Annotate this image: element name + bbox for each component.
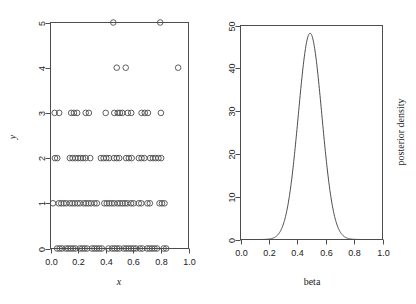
y-axis-title: posterior density	[395, 99, 406, 166]
y-tick-label: 4	[37, 66, 47, 71]
plot-border	[51, 23, 189, 249]
y-tick-label: 40	[227, 63, 237, 73]
y-tick-label: 3	[37, 111, 47, 116]
y-tick-label: 30	[227, 106, 237, 116]
y-tick-label: 0	[37, 247, 47, 252]
y-tick-label: 50	[227, 21, 237, 31]
x-tick-label: 0.8	[155, 257, 168, 267]
y-tick-label: 1	[37, 201, 47, 206]
scatter-plot-svg: 012345 0.00.20.40.60.81.0 x y	[0, 0, 208, 304]
x-axis-ticks: 0.00.20.40.60.81.0	[235, 240, 390, 258]
x-tick-label: 1.0	[183, 257, 196, 267]
data-point	[50, 201, 56, 207]
data-point	[175, 65, 181, 71]
x-tick-label: 0.0	[235, 248, 248, 258]
x-tick-label: 0.6	[127, 257, 140, 267]
x-tick-label: 0.4	[100, 257, 113, 267]
scatter-points	[50, 20, 181, 252]
y-tick-label: 10	[227, 192, 237, 202]
x-axis-title: beta	[304, 276, 321, 287]
x-tick-label: 0.0	[45, 257, 58, 267]
y-axis-title: y	[7, 134, 18, 140]
figure-canvas: 012345 0.00.20.40.60.81.0 x y 0102030405…	[0, 0, 416, 304]
y-tick-label: 2	[37, 156, 47, 161]
density-curve	[241, 33, 383, 239]
data-point	[128, 110, 134, 116]
data-point	[123, 65, 129, 71]
scatter-panel: 012345 0.00.20.40.60.81.0 x y	[0, 0, 208, 304]
y-axis-ticks: 012345	[37, 21, 51, 252]
x-tick-label: 0.8	[348, 248, 361, 258]
x-tick-label: 1.0	[377, 248, 390, 258]
x-axis-title: x	[116, 276, 122, 287]
data-point	[103, 110, 109, 116]
data-point	[114, 65, 120, 71]
y-axis-ticks: 01020304050	[227, 21, 241, 243]
y-tick-label: 0	[227, 238, 237, 243]
x-tick-label: 0.2	[263, 248, 276, 258]
y-tick-label: 5	[37, 21, 47, 26]
data-point	[158, 110, 164, 116]
y-tick-label: 20	[227, 149, 237, 159]
density-plot-svg: 01020304050 0.00.20.40.60.81.0 beta post…	[208, 0, 416, 304]
x-tick-label: 0.2	[72, 257, 85, 267]
x-tick-label: 0.4	[291, 248, 304, 258]
density-panel: 01020304050 0.00.20.40.60.81.0 beta post…	[208, 0, 416, 304]
plot-border	[241, 26, 383, 240]
x-tick-label: 0.6	[320, 248, 333, 258]
